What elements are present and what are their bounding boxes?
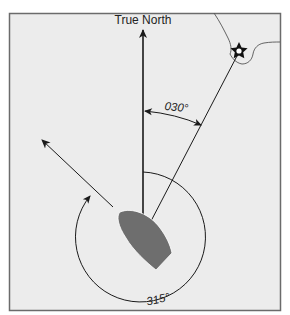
true-north-label: True North <box>115 13 172 27</box>
bearing-diagram: True North 030° 315° <box>0 0 290 315</box>
bearing-label: 030° <box>164 100 189 114</box>
diagram-frame <box>10 14 281 311</box>
